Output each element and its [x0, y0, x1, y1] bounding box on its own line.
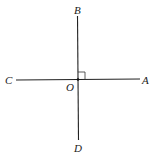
label-c: C	[5, 74, 13, 86]
label-o: O	[66, 81, 74, 93]
right-angle-mark	[78, 72, 85, 80]
line-bd	[78, 16, 79, 140]
label-b: B	[74, 4, 81, 16]
diagram-canvas: B C A O D	[0, 0, 153, 159]
label-d: D	[73, 142, 82, 154]
label-a: A	[141, 74, 149, 86]
point-o	[77, 78, 80, 81]
